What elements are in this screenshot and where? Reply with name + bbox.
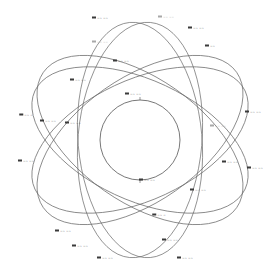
satellite-label: ~~ ~~: [247, 167, 263, 170]
satellite-marker-icon: [40, 120, 44, 122]
satellite-label: ~~ ~: [19, 114, 33, 117]
satellite-label: ~~ ~~: [190, 189, 206, 192]
satellite-label: ~~ ~~: [92, 17, 108, 20]
satellite-marker-icon: [65, 122, 69, 124]
orbit-ellipse-6: [10, 37, 271, 244]
satellite-marker-icon: [152, 214, 156, 216]
satellite-marker-icon: [113, 60, 117, 62]
satellite-label: ~~ ~~: [18, 160, 34, 163]
satellite-label-text: ~~ ~~: [163, 15, 174, 19]
satellite-marker-icon: [55, 230, 59, 232]
satellite-label: ~~ ~~: [162, 239, 178, 242]
satellite-marker-icon: [19, 114, 23, 116]
satellite-marker-icon: [222, 161, 226, 163]
satellite-marker-icon: [18, 160, 22, 162]
satellite-label: ~~: [205, 45, 215, 48]
satellite-label-text: ~~ ~~: [130, 92, 141, 96]
satellite-label-text: ~~ ~~: [75, 78, 86, 82]
satellite-label-text: ~~ ~~: [102, 256, 113, 260]
satellite-label: ~~ ~~: [245, 111, 261, 114]
satellite-marker-icon: [70, 79, 74, 81]
orbit-ellipse-2: [8, 22, 272, 259]
satellite-label-text: ~~ ~~: [23, 159, 34, 163]
satellite-label-text: ~~ ~~: [97, 40, 108, 44]
satellite-label: ~~ ~~: [188, 27, 204, 30]
orbit-ellipse-4: [68, 17, 212, 263]
satellite-marker-icon: [162, 239, 166, 241]
satellite-label: ~~ ~~: [92, 41, 108, 44]
satellite-label-text: ~~ ~~: [118, 59, 129, 63]
satellite-label-text: ~~ ~~: [182, 256, 193, 260]
satellite-label: ~~ ~~: [55, 230, 71, 233]
satellite-label-text: ~~ ~~: [97, 16, 108, 20]
satellite-marker-icon: [247, 167, 251, 169]
satellite-marker-icon: [205, 45, 209, 47]
satellite-marker-icon: [190, 189, 194, 191]
satellite-label: ~~ ~~: [97, 257, 113, 260]
satellite-label-text: ~~ ~~: [215, 124, 226, 128]
central-body-circle: [100, 100, 180, 180]
satellite-label-text: ~~ ~: [157, 213, 166, 217]
satellite-marker-icon: [188, 27, 192, 29]
satellite-label: ~~ ~~: [70, 79, 86, 82]
satellite-label: ~~ ~~: [125, 93, 141, 96]
satellite-label-text: ~~ ~~: [60, 229, 71, 233]
satellite-label: ~~ ~~: [72, 245, 88, 248]
satellite-label: ~~ ~~: [65, 122, 81, 125]
satellite-label: ~~ ~~: [113, 60, 129, 63]
satellite-label-text: ~~ ~~: [250, 110, 261, 114]
satellite-marker-icon: [139, 179, 143, 181]
orbit-diagram: [0, 0, 280, 280]
satellite-marker-icon: [125, 93, 129, 95]
satellite-label-text: ~~ ~~: [144, 178, 155, 182]
satellite-label-text: ~~ ~~: [193, 26, 204, 30]
satellite-label: ~~ ~~: [222, 161, 238, 164]
satellite-label-text: ~~ ~~: [167, 238, 178, 242]
orbit-ellipse-5: [10, 37, 271, 244]
orbit-ellipse-1: [8, 22, 272, 259]
satellite-label-text: ~~ ~~: [45, 119, 56, 123]
satellite-label: ~~ ~~: [40, 120, 56, 123]
satellite-label-text: ~~ ~~: [195, 188, 206, 192]
satellite-label: ~~ ~: [152, 214, 166, 217]
satellite-marker-icon: [97, 257, 101, 259]
satellite-marker-icon: [92, 41, 96, 43]
satellite-marker-icon: [92, 17, 96, 19]
satellite-label-text: ~~ ~~: [252, 166, 263, 170]
satellite-label-text: ~~ ~~: [70, 121, 81, 125]
satellite-label-text: ~~ ~~: [227, 160, 238, 164]
satellite-label: ~~ ~~: [158, 16, 174, 19]
orbit-ellipse-3: [68, 17, 212, 263]
satellite-marker-icon: [177, 257, 181, 259]
satellite-label: ~~ ~~: [177, 257, 193, 260]
satellite-label: ~~ ~~: [139, 179, 155, 182]
satellite-marker-icon: [158, 16, 162, 18]
satellite-label-text: ~~ ~: [24, 113, 33, 117]
orbit-group: [8, 17, 272, 263]
satellite-label-text: ~~: [210, 44, 215, 48]
satellite-marker-icon: [245, 111, 249, 113]
satellite-label-text: ~~ ~~: [77, 244, 88, 248]
satellite-marker-icon: [210, 125, 214, 127]
satellite-label: ~~ ~~: [210, 125, 226, 128]
satellite-marker-icon: [72, 245, 76, 247]
